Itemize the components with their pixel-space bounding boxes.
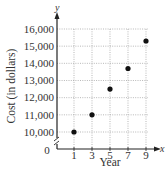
y-axis-arrow-icon [55,12,60,19]
scatter-chart: 10,00011,00012,00013,00014,00015,00016,0… [0,0,165,175]
x-tick-label: 1 [71,149,77,161]
data-point [125,66,130,71]
x-tick-label: 3 [89,149,95,161]
data-point [89,112,94,117]
x-axis-letter: x [159,143,165,154]
y-tick-label: 13,000 [24,74,55,86]
tick-labels: 10,00011,00012,00013,00014,00015,00016,0… [24,23,150,161]
axis-break-icon [53,137,61,145]
y-tick-label: 10,000 [24,126,55,138]
y-tick-label: 14,000 [24,57,55,69]
y-axis-title: Cost (in dollars) [5,48,18,123]
x-axis-title: Year [99,156,120,168]
x-tick-label: 7 [125,149,131,161]
data-point [107,86,112,91]
data-point [143,38,148,43]
grid [57,29,149,151]
origin-label: 0 [44,144,50,156]
axes [53,12,161,152]
y-tick-label: 16,000 [24,23,55,35]
y-tick-label: 11,000 [24,109,54,121]
data-point [71,129,76,134]
x-tick-label: 9 [143,149,149,161]
y-tick-label: 12,000 [24,91,55,103]
y-axis-letter: y [54,2,60,13]
y-tick-label: 15,000 [24,40,55,52]
